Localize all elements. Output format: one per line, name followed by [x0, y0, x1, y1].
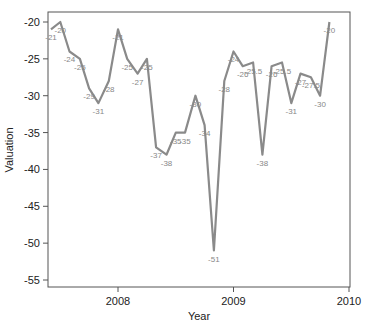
- y-tick-label: -25: [24, 53, 40, 65]
- data-point-label: -34: [199, 129, 211, 138]
- x-tick-label: 2009: [221, 295, 245, 307]
- point-labels: -21-20-24-25-29-31-28-21-25-27-25-37-38-…: [45, 26, 335, 264]
- data-point-label: -25.5: [244, 67, 263, 76]
- y-tick-label: -40: [24, 163, 40, 175]
- data-point-label: -38: [257, 159, 269, 168]
- data-point-label: -51: [208, 255, 220, 264]
- data-point-label: -25: [141, 63, 153, 72]
- data-point-label: -31: [93, 107, 105, 116]
- y-tick-label: -50: [24, 237, 40, 249]
- y-tick-label: -45: [24, 200, 40, 212]
- y-axis-title: Valuation: [3, 127, 15, 172]
- data-point-label: -20: [54, 26, 66, 35]
- data-point-label: -20: [324, 26, 336, 35]
- data-point-label: -29: [83, 92, 95, 101]
- data-point-label: -25: [121, 63, 133, 72]
- y-axis: -20-25-30-35-40-45-50-55: [24, 16, 48, 286]
- data-point-label: -25.5: [273, 67, 292, 76]
- data-point-label: -31: [285, 107, 297, 116]
- x-tick-label: 2010: [337, 295, 361, 307]
- data-point-label: -24: [228, 55, 240, 64]
- data-point-label: -28: [218, 85, 230, 94]
- x-axis-title: Year: [188, 310, 211, 322]
- y-tick-label: -55: [24, 274, 40, 286]
- data-point-label: -25: [74, 63, 86, 72]
- data-point-label: -21: [112, 33, 124, 42]
- x-axis: 200820092010: [106, 287, 361, 307]
- data-point-label: -27.5: [302, 81, 321, 90]
- data-point-label: -30: [314, 100, 326, 109]
- data-point-label: -35: [179, 137, 191, 146]
- line-chart: -20-25-30-35-40-45-50-55 200820092010 -2…: [0, 0, 365, 325]
- y-tick-label: -20: [24, 16, 40, 28]
- x-tick-label: 2008: [106, 295, 130, 307]
- plot-frame: [48, 12, 350, 287]
- data-point-label: -38: [161, 159, 173, 168]
- data-point-label: -27: [132, 78, 144, 87]
- y-tick-label: -30: [24, 90, 40, 102]
- data-point-label: -30: [190, 100, 202, 109]
- y-tick-label: -35: [24, 127, 40, 139]
- data-point-label: -28: [103, 85, 115, 94]
